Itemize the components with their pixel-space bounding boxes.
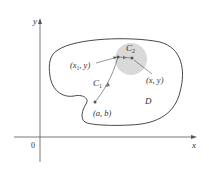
- leader-x1-y: [96, 58, 116, 64]
- origin-label: 0: [31, 141, 35, 150]
- point-x-y: [131, 57, 134, 60]
- x-axis-label: x: [191, 140, 196, 150]
- c1-label: C1: [93, 78, 102, 89]
- a-b-label: (a, b): [93, 108, 112, 118]
- y-axis-arrow-icon: [38, 18, 42, 24]
- y-axis-label: y: [32, 16, 37, 26]
- x-axis-arrow-icon: [191, 135, 197, 139]
- x1-y-label: (x1, y): [70, 60, 90, 71]
- axes: y x 0: [14, 16, 197, 162]
- region-d-label: D: [144, 96, 152, 106]
- diagram-svg: y x 0 C2 (x1, y) C1 (x, y) D (a, b): [0, 0, 209, 176]
- point-a-b: [94, 101, 97, 104]
- diagram-canvas: y x 0 C2 (x1, y) C1 (x, y) D (a, b): [0, 0, 209, 176]
- x-y-label: (x, y): [146, 75, 164, 85]
